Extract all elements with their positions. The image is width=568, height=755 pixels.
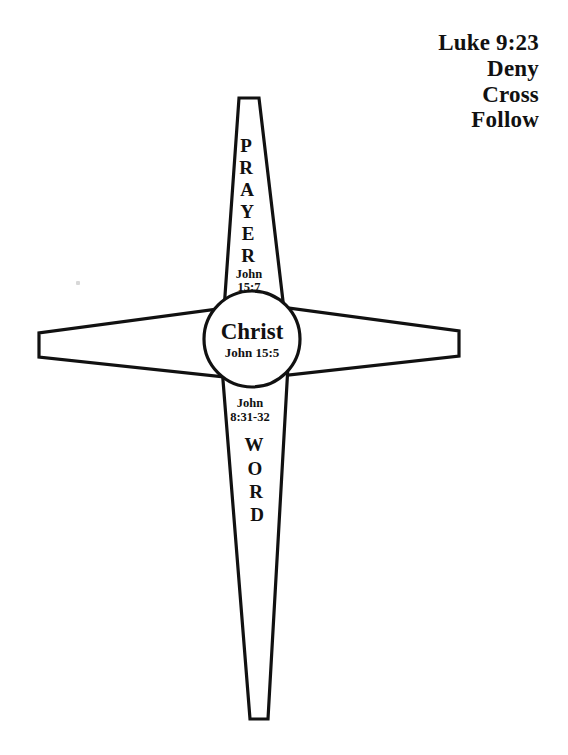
- top-beam-letter-3: Y: [240, 201, 254, 222]
- top-beam-reference-line1: John: [236, 267, 262, 281]
- bottom-beam-letter-2: R: [249, 481, 263, 502]
- top-beam-letter-4: E: [242, 223, 255, 244]
- bottom-beam-reference-line1: John: [237, 396, 263, 410]
- top-beam-reference-line2: 15:7: [238, 280, 261, 294]
- bottom-beam-letter-3: D: [250, 504, 264, 525]
- bottom-beam-reference-line2: 8:31-32: [230, 410, 270, 424]
- center-reference-label: John 15:5: [225, 345, 280, 360]
- bottom-beam-letter-0: W: [245, 434, 264, 455]
- top-beam-letter-1: R: [239, 157, 253, 178]
- top-beam-letter-5: R: [241, 245, 255, 266]
- page-canvas: Luke 9:23 Deny Cross Follow P R A Y E R …: [0, 0, 568, 755]
- top-beam-letter-2: A: [240, 179, 254, 200]
- top-beam-letter-0: P: [240, 135, 252, 156]
- cross-diagram: P R A Y E R John 15:7 Christ John 15:5 J…: [0, 0, 568, 755]
- center-name-label: Christ: [221, 319, 284, 344]
- bottom-beam-letter-1: O: [248, 458, 263, 479]
